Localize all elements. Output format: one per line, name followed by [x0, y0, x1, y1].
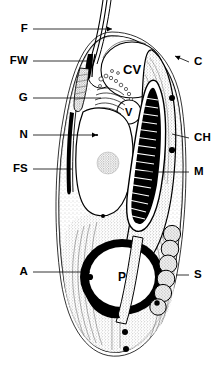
label-s: S [194, 269, 202, 281]
label-c: C [194, 56, 203, 68]
dark-granule-dot [122, 329, 128, 335]
label-f: F [21, 23, 28, 35]
label-cv: CV [123, 63, 141, 76]
nucleolus [97, 152, 119, 174]
label-ch: CH [194, 132, 211, 144]
dark-granule-dot [169, 95, 175, 101]
dark-granule-dot [87, 274, 93, 280]
label-a: A [19, 266, 28, 278]
label-n: N [19, 129, 28, 141]
label-g: G [19, 92, 28, 104]
dark-granule-dot [154, 300, 159, 305]
nucleus [76, 108, 133, 216]
label-fw: FW [10, 55, 28, 67]
dark-granule-dot [123, 346, 129, 352]
label-v: V [125, 107, 132, 118]
dark-granule-dot [101, 214, 105, 218]
dark-granule-dot [169, 147, 175, 153]
label-m: M [194, 166, 204, 178]
label-fs: FS [13, 163, 28, 175]
label-p: P [118, 271, 126, 283]
leader-arrowhead-f [107, 27, 112, 32]
cell-diagram-svg [0, 0, 222, 377]
figure-canvas [0, 0, 222, 377]
